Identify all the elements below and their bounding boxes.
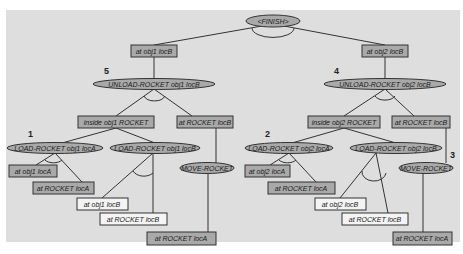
svg-text:at obj2 locB: at obj2 locB — [322, 201, 359, 209]
cond-inside-obj1-rocket: inside obj1 ROCKET — [78, 116, 154, 128]
finish-and-arc — [252, 28, 294, 37]
cond-at-obj1-locA: at obj1 locA — [9, 165, 57, 177]
svg-text:LOAD-ROCKET obj1 locB: LOAD-ROCKET obj1 locB — [114, 145, 196, 153]
svg-text:at ROCKET locA: at ROCKET locA — [275, 185, 328, 192]
svg-text:at obj2 locA: at obj2 locA — [249, 168, 286, 176]
svg-text:at obj1 locB: at obj1 locB — [84, 201, 121, 209]
step-number-5: 5 — [104, 66, 109, 76]
svg-text:LOAD-ROCKET obj1 locA: LOAD-ROCKET obj1 locA — [14, 145, 96, 153]
cond-at-rocket-locB-left: at ROCKET locB — [177, 116, 233, 128]
action-unload-obj2: UNLOAD-ROCKET obj2 locB — [324, 79, 446, 90]
step-number-2: 2 — [265, 129, 270, 139]
cond-at-rocket-locB-open-1: at ROCKET locB — [100, 213, 167, 225]
svg-text:at ROCKET locB: at ROCKET locB — [395, 119, 448, 126]
svg-text:at ROCKET locA: at ROCKET locA — [155, 235, 208, 242]
action-unload-obj1: UNLOAD-ROCKET obj1 locB — [93, 79, 215, 90]
goal-at-obj1-locB: at obj1 locB — [131, 45, 177, 57]
svg-text:MOVE-ROCKET: MOVE-ROCKET — [181, 165, 234, 172]
svg-text:LOAD-ROCKET obj2 locA: LOAD-ROCKET obj2 locA — [248, 145, 330, 153]
svg-text:at obj1 locB: at obj1 locB — [136, 48, 173, 56]
svg-text:<FINISH>: <FINISH> — [257, 18, 288, 25]
cond-at-rocket-locB-open-2: at ROCKET locB — [342, 213, 408, 225]
action-move-rocket-right: MOVE-ROCKET — [399, 163, 453, 174]
step-number-3: 3 — [450, 150, 455, 160]
svg-text:at obj1 locA: at obj1 locA — [15, 168, 52, 176]
action-load-obj2-locB: LOAD-ROCKET obj2 locB — [350, 143, 442, 154]
action-load-obj1-locB: LOAD-ROCKET obj1 locB — [110, 143, 200, 154]
cond-at-rocket-locA-1: at ROCKET locA — [33, 182, 94, 194]
cond-at-obj2-locA: at obj2 locA — [245, 165, 290, 177]
svg-text:UNLOAD-ROCKET obj2 locB: UNLOAD-ROCKET obj2 locB — [339, 81, 431, 89]
cond-at-rocket-locA-2: at ROCKET locA — [268, 182, 335, 194]
svg-text:at obj2 locB: at obj2 locB — [367, 48, 404, 56]
goal-tree-svg: <FINISH> at obj1 locB at obj2 locB 5 4 1… — [0, 0, 463, 254]
diagram-canvas: <FINISH> at obj1 locB at obj2 locB 5 4 1… — [0, 0, 463, 254]
action-move-rocket-left: MOVE-ROCKET — [180, 163, 234, 174]
goal-at-obj2-locB: at obj2 locB — [362, 45, 408, 57]
svg-text:at ROCKET locB: at ROCKET locB — [179, 119, 232, 126]
svg-text:at ROCKET locA: at ROCKET locA — [37, 185, 90, 192]
action-load-obj1-locA: LOAD-ROCKET obj1 locA — [7, 143, 103, 154]
svg-text:inside obj1 ROCKET: inside obj1 ROCKET — [84, 119, 149, 127]
cond-at-obj2-locB-open: at obj2 locB — [315, 198, 366, 210]
svg-text:inside obj2 ROCKET: inside obj2 ROCKET — [312, 119, 377, 127]
svg-text:MOVE-ROCKET: MOVE-ROCKET — [400, 165, 453, 172]
cond-at-obj1-locB-open: at obj1 locB — [77, 198, 128, 210]
cond-at-rocket-locA-move-1: at ROCKET locA — [147, 232, 216, 245]
step-number-4: 4 — [334, 66, 339, 76]
cond-inside-obj2-rocket: inside obj2 ROCKET — [308, 116, 380, 128]
cond-at-rocket-locB-right: at ROCKET locB — [392, 116, 450, 128]
cond-at-rocket-locA-move-2: at ROCKET locA — [393, 232, 452, 245]
finish-node: <FINISH> — [246, 15, 300, 27]
svg-text:LOAD-ROCKET obj2 locB: LOAD-ROCKET obj2 locB — [355, 145, 437, 153]
action-load-obj2-locA: LOAD-ROCKET obj2 locA — [245, 143, 333, 154]
svg-text:at ROCKET locB: at ROCKET locB — [349, 216, 402, 223]
svg-text:at ROCKET locA: at ROCKET locA — [396, 235, 449, 242]
svg-text:at ROCKET locB: at ROCKET locB — [107, 216, 160, 223]
svg-text:UNLOAD-ROCKET obj1 locB: UNLOAD-ROCKET obj1 locB — [108, 81, 200, 89]
step-number-1: 1 — [28, 129, 33, 139]
